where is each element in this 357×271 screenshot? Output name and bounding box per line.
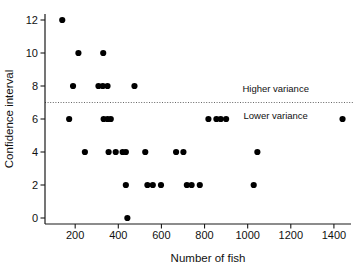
tick-labels: 024681012200400600800100012001400 — [26, 14, 346, 241]
x-tick-label: 400 — [109, 229, 127, 241]
data-point — [123, 149, 129, 155]
x-tick-label: 1200 — [279, 229, 303, 241]
y-tick-label: 10 — [26, 47, 38, 59]
y-tick-label: 6 — [32, 113, 38, 125]
data-point — [70, 83, 76, 89]
data-point — [124, 215, 130, 221]
data-point — [339, 116, 345, 122]
data-point — [150, 182, 156, 188]
variance-annotation: Higher variance — [242, 83, 309, 94]
data-point — [100, 50, 106, 56]
x-tick-label: 1000 — [235, 229, 259, 241]
scatter-chart: 024681012200400600800100012001400 Higher… — [0, 0, 357, 271]
chart-canvas: 024681012200400600800100012001400 Higher… — [0, 0, 357, 271]
x-axis-title: Number of fish — [171, 252, 246, 264]
data-point — [223, 116, 229, 122]
data-point — [123, 182, 129, 188]
data-point — [59, 17, 65, 23]
x-tick-label: 200 — [66, 229, 84, 241]
data-point — [189, 182, 195, 188]
data-point — [75, 50, 81, 56]
data-point — [173, 149, 179, 155]
y-tick-label: 0 — [32, 212, 38, 224]
data-point — [106, 149, 112, 155]
data-point — [82, 149, 88, 155]
data-point — [144, 182, 150, 188]
data-point — [142, 149, 148, 155]
data-point — [254, 149, 260, 155]
data-point — [251, 182, 257, 188]
tick-marks — [41, 20, 334, 229]
y-tick-label: 2 — [32, 179, 38, 191]
variance-annotation: Lower variance — [243, 110, 307, 121]
y-tick-label: 12 — [26, 14, 38, 26]
y-tick-label: 4 — [32, 146, 38, 158]
y-tick-label: 8 — [32, 80, 38, 92]
data-point — [180, 149, 186, 155]
x-tick-label: 800 — [195, 229, 213, 241]
y-axis-title: Confidence interval — [3, 70, 15, 168]
x-tick-label: 600 — [152, 229, 170, 241]
x-tick-label: 1400 — [322, 229, 346, 241]
data-point — [218, 116, 224, 122]
data-point — [131, 83, 137, 89]
data-point — [205, 116, 211, 122]
data-point — [158, 182, 164, 188]
data-point — [197, 182, 203, 188]
data-point — [113, 149, 119, 155]
data-point — [104, 83, 110, 89]
data-point — [66, 116, 72, 122]
data-point — [108, 116, 114, 122]
